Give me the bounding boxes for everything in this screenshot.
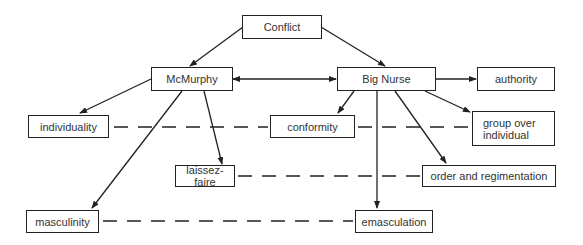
arrow-big-nurse-conformity bbox=[338, 91, 354, 113]
arrow-mcmurphy-masculinity bbox=[92, 91, 182, 208]
node-label: individuality bbox=[40, 121, 97, 133]
arrow-conflict-big-nurse bbox=[321, 27, 385, 66]
arrow-big-nurse-group bbox=[425, 91, 470, 112]
node-label: emasculation bbox=[362, 216, 427, 228]
node-authority: authority bbox=[477, 67, 555, 91]
node-label: Conflict bbox=[264, 21, 301, 33]
arrow-conflict-mcmurphy bbox=[190, 27, 243, 66]
node-masculinity: masculinity bbox=[26, 210, 99, 233]
node-conflict: Conflict bbox=[242, 15, 322, 39]
node-label: masculinity bbox=[35, 216, 89, 228]
node-label-line2: individual bbox=[483, 129, 529, 141]
node-label: authority bbox=[495, 73, 537, 85]
arrow-mcmurphy-individuality bbox=[80, 79, 151, 113]
node-label: Big Nurse bbox=[362, 73, 410, 85]
node-conformity: conformity bbox=[270, 115, 355, 138]
node-big-nurse: Big Nurse bbox=[337, 67, 436, 91]
node-label-line1: group over bbox=[483, 117, 536, 129]
node-mcmurphy: McMurphy bbox=[151, 67, 233, 91]
node-order-and-regimentation: order and regimentation bbox=[422, 165, 556, 187]
node-individuality: individuality bbox=[28, 115, 109, 138]
node-laissez-faire: laissez-faire bbox=[175, 165, 235, 187]
node-label: conformity bbox=[287, 121, 338, 133]
node-label: McMurphy bbox=[166, 73, 217, 85]
node-group-over-individual: group over individual bbox=[472, 111, 555, 146]
node-label: laissez-faire bbox=[176, 164, 234, 188]
node-emasculation: emasculation bbox=[355, 210, 433, 233]
node-label: order and regimentation bbox=[431, 170, 548, 182]
